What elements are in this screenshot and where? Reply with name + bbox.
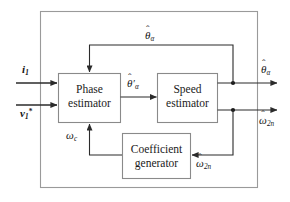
omega-c-label: ωc [66, 130, 77, 143]
omega-output-hat-group: ̂ω [259, 115, 267, 126]
theta-output-sub: α [267, 69, 271, 77]
omega-feedback-base: ω [196, 157, 204, 169]
input-voltage-label: v1* [20, 108, 32, 121]
theta-prime-sub: α [135, 83, 139, 91]
theta-output-hat-group: ̂θ [261, 64, 266, 75]
input-current-label: i1 [22, 64, 29, 77]
theta-output-base: θ [261, 63, 266, 75]
omega-c-sub: c [74, 135, 77, 143]
theta-feedback-label: ̂θα [145, 30, 154, 43]
omega-c-base: ω [66, 129, 74, 141]
block-diagram-figure: Phase estimator Speed estimator Coeffici… [0, 0, 290, 202]
theta-feedback-base: θ [145, 29, 150, 41]
theta-feedback-hat-group: ̂θ [145, 30, 150, 41]
theta-prime-label: ̂θ′α [127, 78, 139, 91]
input-current-sub: 1 [25, 69, 29, 77]
omega-output-sub: 2n [267, 120, 274, 128]
theta-prime-base: θ [127, 77, 132, 89]
phase-estimator-block[interactable] [59, 74, 121, 123]
omega-feedback-sub: 2n [204, 163, 211, 171]
theta-prime-hat-group: ̂θ [127, 78, 132, 89]
coefficient-generator-block[interactable] [123, 134, 191, 179]
omega-output-label: ̂ω2n [259, 115, 274, 128]
input-voltage-sup: * [29, 107, 33, 116]
speed-estimator-block[interactable] [158, 74, 218, 123]
theta-output-label: ̂θα [261, 64, 270, 77]
omega-c-path [90, 124, 123, 155]
theta-feedback-sub: α [151, 35, 155, 43]
omega-feedback-hat-group: ̂ω [196, 158, 204, 169]
omega-output-base: ω [259, 114, 267, 126]
omega-feedback-label: ̂ω2n [196, 158, 211, 171]
